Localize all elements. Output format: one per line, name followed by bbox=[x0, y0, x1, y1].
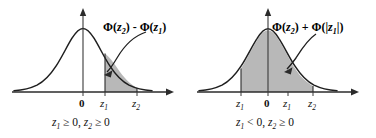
left-caption-rel1: ≥ 0, bbox=[63, 116, 81, 128]
right-annot-phi2: Φ bbox=[311, 20, 321, 34]
right-annotation-label: Φ(z2) + Φ(|z1|) bbox=[272, 21, 343, 36]
left-xtick-z2: z2 bbox=[132, 98, 140, 112]
panel-right: Φ(z2) + Φ(|z1|) z1 0 z1 z2 z1 < 0, z2 ≥ … bbox=[188, 0, 376, 138]
right-annot-operator: + bbox=[302, 20, 309, 34]
right-xtick-z2: z2 bbox=[308, 98, 316, 112]
right-caption-rel1: < 0, bbox=[247, 116, 265, 128]
left-x-axis-arrowhead bbox=[166, 89, 174, 96]
left-caption: z1 ≥ 0, z2 ≥ 0 bbox=[52, 117, 110, 131]
left-y-axis-arrowhead bbox=[80, 8, 86, 16]
normal-distribution-figure: Φ(z2) - Φ(z1) 0 z1 z2 z1 ≥ 0, z2 ≥ 0 bbox=[0, 0, 376, 138]
right-caption-rel2: ≥ 0 bbox=[279, 116, 294, 128]
panel-left: Φ(z2) - Φ(z1) 0 z1 z2 z1 ≥ 0, z2 ≥ 0 bbox=[0, 0, 188, 138]
left-annot-phi1: Φ bbox=[103, 20, 113, 34]
left-annot-operator: - bbox=[133, 20, 137, 34]
right-annotation-pointer bbox=[287, 34, 316, 69]
left-caption-var1-sub: 1 bbox=[56, 122, 60, 131]
right-caption-var2-sub: 2 bbox=[272, 122, 276, 131]
right-caption-var1-sub: 1 bbox=[240, 122, 244, 131]
right-y-axis-arrowhead bbox=[265, 8, 271, 16]
left-annot-phi2: Φ bbox=[140, 20, 150, 34]
right-xtick-z1-neg: z1 bbox=[236, 98, 244, 112]
left-annotation-label: Φ(z2) - Φ(z1) bbox=[103, 21, 166, 36]
left-caption-rel2: ≥ 0 bbox=[95, 116, 110, 128]
left-xtick-zero: 0 bbox=[79, 98, 85, 109]
right-xtick-z1-pos: z1 bbox=[283, 98, 291, 112]
right-x-axis-arrowhead bbox=[351, 89, 359, 96]
right-caption: z1 < 0, z2 ≥ 0 bbox=[236, 117, 294, 131]
right-xtick-zero: 0 bbox=[264, 98, 270, 109]
right-shaded-area bbox=[241, 30, 313, 92]
left-caption-var2-sub: 2 bbox=[88, 122, 92, 131]
right-annot-phi1: Φ bbox=[272, 20, 282, 34]
left-xtick-z1: z1 bbox=[100, 98, 108, 112]
